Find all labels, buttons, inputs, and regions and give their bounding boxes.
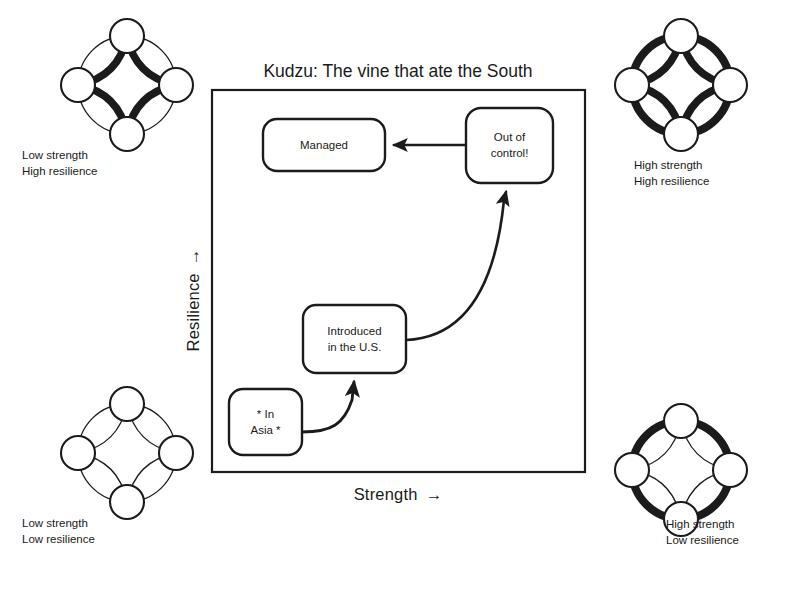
node-out-of-control[interactable]: Out of control! bbox=[466, 108, 553, 183]
diagram-canvas: Kudzu: The vine that ate the South Stren… bbox=[0, 0, 809, 591]
node-introduced-us-label-line2: in the U.S. bbox=[328, 341, 382, 353]
legend-label-line1: High strength bbox=[634, 159, 702, 171]
node-managed-label: Managed bbox=[300, 139, 348, 151]
network-nodes-icon bbox=[61, 19, 193, 151]
legend-icon-high-strength-low-resilience bbox=[615, 404, 747, 536]
y-axis-label-text: Resilience bbox=[184, 273, 202, 351]
network-nodes-icon bbox=[615, 404, 747, 536]
svg-text:Strength→: Strength→ bbox=[354, 485, 443, 503]
svg-text:Resilience→: Resilience→ bbox=[184, 249, 202, 352]
node-out-of-control-label-line1: Out of bbox=[494, 131, 526, 143]
node-out-of-control-label-line2: control! bbox=[491, 147, 529, 159]
node-in-asia[interactable]: * In Asia * bbox=[229, 389, 302, 455]
legend-label-line2: Low resilience bbox=[666, 534, 739, 546]
network-nodes-icon bbox=[61, 387, 193, 519]
legend-icon-high-strength-high-resilience bbox=[615, 19, 747, 151]
y-axis-label: Resilience→ bbox=[184, 249, 202, 352]
x-axis-label-text: Strength bbox=[354, 485, 418, 503]
x-axis-label: Strength→ bbox=[354, 485, 443, 503]
legend-label-line2: Low resilience bbox=[22, 533, 95, 545]
node-managed[interactable]: Managed bbox=[263, 119, 385, 171]
page-title: Kudzu: The vine that ate the South bbox=[263, 61, 532, 81]
legend-label-line1: High strength bbox=[666, 518, 734, 530]
legend-label-low-strength-low-resilience: Low strength Low resilience bbox=[22, 517, 95, 545]
node-introduced-us[interactable]: Introduced in the U.S. bbox=[303, 305, 406, 373]
network-nodes-icon bbox=[615, 19, 747, 151]
edge-asia-to-introduced bbox=[302, 382, 354, 432]
legend-label-line1: Low strength bbox=[22, 149, 88, 161]
x-axis-arrow-icon: → bbox=[426, 485, 443, 503]
node-in-asia-label-line2: Asia * bbox=[250, 424, 281, 436]
legend-icon-low-strength-high-resilience bbox=[61, 19, 193, 151]
legend-label-line2: High resilience bbox=[22, 165, 97, 177]
y-axis-arrow-icon: → bbox=[184, 249, 202, 266]
node-in-asia-label-line1: * In bbox=[257, 408, 274, 420]
legend-icon-low-strength-low-resilience bbox=[61, 387, 193, 519]
legend-label-high-strength-high-resilience: High strength High resilience bbox=[634, 159, 709, 187]
edge-introduced-to-outofcontrol bbox=[406, 192, 506, 340]
legend-label-low-strength-high-resilience: Low strength High resilience bbox=[22, 149, 97, 177]
node-introduced-us-label-line1: Introduced bbox=[327, 325, 381, 337]
legend-label-line2: High resilience bbox=[634, 175, 709, 187]
legend-label-line1: Low strength bbox=[22, 517, 88, 529]
